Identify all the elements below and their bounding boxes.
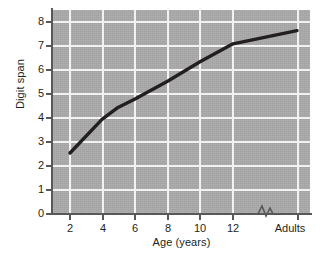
x-tick-label: Adults [260, 222, 316, 234]
y-tick-mark [46, 93, 51, 95]
y-tick-label: 2 [14, 160, 44, 171]
x-axis-title: Age (years) [53, 236, 310, 248]
y-tick-mark [46, 69, 51, 71]
y-tick-mark [46, 117, 51, 119]
digit-span-line-chart: 8 7 6 5 4 3 2 1 0 2 4 6 8 10 12 Adults D… [0, 0, 316, 258]
x-tick-label: 12 [203, 222, 263, 234]
y-tick-mark [46, 165, 51, 167]
y-tick-mark [46, 21, 51, 23]
x-tick-mark [232, 215, 234, 220]
y-tick-mark [46, 213, 51, 215]
x-tick-mark [199, 215, 201, 220]
x-tick-mark [297, 215, 299, 220]
x-tick-mark [134, 215, 136, 220]
y-tick-mark [46, 189, 51, 191]
y-tick-mark [46, 45, 51, 47]
axis-break-icon [0, 0, 316, 258]
y-tick-label: 8 [14, 16, 44, 27]
y-tick-label: 1 [14, 184, 44, 195]
y-tick-mark [46, 141, 51, 143]
x-tick-mark [167, 215, 169, 220]
x-tick-mark [102, 215, 104, 220]
y-axis-title: Digit span [14, 29, 26, 139]
y-tick-label: 0 [14, 208, 44, 219]
x-tick-mark [69, 215, 71, 220]
